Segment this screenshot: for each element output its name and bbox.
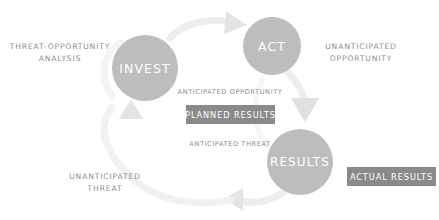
- chip-planned-results[interactable]: PLANNED RESULTS: [186, 105, 275, 124]
- node-act-label: ACT: [258, 39, 286, 54]
- chip-actual-results[interactable]: ACTUAL RESULTS: [347, 167, 436, 186]
- annotation-unanticipated-threat: UNANTICIPATED THREAT: [52, 171, 158, 195]
- annotation-threat-opportunity-analysis: THREAT-OPPORTUNITY ANALYSIS: [6, 41, 114, 65]
- node-invest[interactable]: INVEST: [112, 35, 178, 101]
- arc-invest-to-act: [170, 21, 229, 38]
- cycle-diagram: INVEST ACT RESULTS THREAT-OPPORTUNITY AN…: [0, 0, 439, 220]
- arrowhead-into-act: [224, 11, 247, 34]
- node-results-label: RESULTS: [270, 155, 330, 169]
- chip-actual-results-label: ACTUAL RESULTS: [350, 172, 433, 182]
- annotation-unanticipated-opportunity: UNANTICIPATED OPPORTUNITY: [309, 41, 413, 65]
- arc-results-to-feedback: [240, 192, 284, 202]
- annotation-anticipated-opportunity: ANTICIPATED OPPORTUNITY: [174, 87, 286, 97]
- arrowhead-into-results: [291, 98, 319, 122]
- node-invest-label: INVEST: [119, 61, 171, 76]
- node-act[interactable]: ACT: [243, 17, 301, 75]
- annotation-anticipated-threat: ANTICIPATED THREAT: [174, 139, 286, 149]
- chip-planned-results-label: PLANNED RESULTS: [185, 110, 276, 120]
- arrowhead-into-invest: [119, 99, 143, 119]
